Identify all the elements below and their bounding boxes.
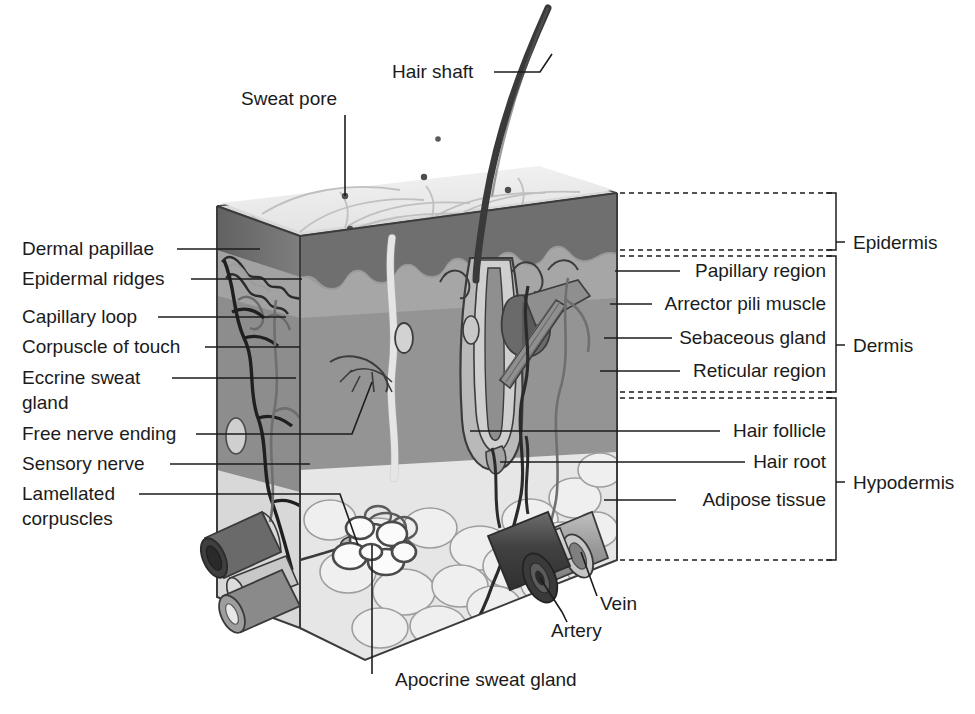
label-arrector-pili-muscle: Arrector pili muscle [664,293,826,314]
label-corpuscle-of-touch: Corpuscle of touch [22,336,180,357]
label-eccrine-sweat-gland-line1: Eccrine sweat [22,367,141,388]
label-sensory-nerve: Sensory nerve [22,453,145,474]
label-hypodermis: Hypodermis [853,472,954,493]
label-capillary-loop: Capillary loop [22,306,137,327]
hair-root [485,268,504,440]
label-epidermis: Epidermis [853,232,937,253]
label-vein: Vein [600,593,637,614]
label-eccrine-sweat-gland-line2: gland [22,392,69,413]
label-apocrine-sweat-gland: Apocrine sweat gland [395,669,577,690]
label-sweat-pore: Sweat pore [241,88,337,109]
label-free-nerve-ending: Free nerve ending [22,423,176,444]
label-artery: Artery [551,620,602,641]
label-reticular-region: Reticular region [693,360,826,381]
label-hair-shaft: Hair shaft [392,61,474,82]
label-papillary-region: Papillary region [695,260,826,281]
label-adipose-tissue: Adipose tissue [702,489,826,510]
label-dermal-papillae: Dermal papillae [22,238,154,259]
sweat-pore-opening [421,174,427,180]
label-lamellated-corpuscles-line2: corpuscles [22,508,113,529]
lamellated-corpuscle-inline [226,418,246,454]
label-hair-root: Hair root [753,451,827,472]
label-dermis: Dermis [853,335,913,356]
label-epidermal-ridges: Epidermal ridges [22,268,165,289]
skin-diagram-figure: Hair shaft Sweat pore Dermal papillae Ep… [0,0,975,714]
corpuscle-of-touch [395,323,413,353]
sweat-pore-opening [435,136,441,142]
apocrine-sweat-gland-coil [333,517,416,575]
label-lamellated-corpuscles-line1: Lamellated [22,483,115,504]
corpuscle-of-touch [463,316,479,344]
label-sebaceous-gland: Sebaceous gland [679,327,826,348]
label-hair-follicle: Hair follicle [733,420,826,441]
sweat-pore-opening [505,187,511,193]
